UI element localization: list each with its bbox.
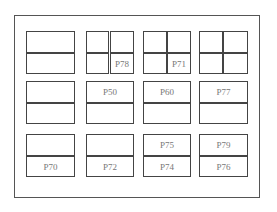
cell-c4-r2a: P77 xyxy=(199,81,248,103)
cell-c3-r2a: P60 xyxy=(143,81,191,103)
cell-c1-r1a xyxy=(26,31,75,53)
cell-c2-r3b: P72 xyxy=(86,155,134,177)
cell-c1-r1b xyxy=(26,52,75,74)
cell-c2-r1a-left xyxy=(86,31,109,53)
cell-c3-r3a: P75 xyxy=(143,134,191,156)
cell-c3-r1a-left xyxy=(143,31,167,53)
cell-c3-r1a-right xyxy=(167,31,191,53)
cell-c2-r2a: P50 xyxy=(86,81,134,103)
cell-c4-r3a: P79 xyxy=(199,134,248,156)
cell-c4-r1a-right xyxy=(223,31,248,53)
cell-c2-r2b xyxy=(86,102,134,124)
cell-c3-r1b-left xyxy=(143,52,167,74)
cell-c4-r2b xyxy=(199,102,248,124)
cell-c4-r3b: P76 xyxy=(199,155,248,177)
cell-c1-r3b: P70 xyxy=(26,155,75,177)
cell-c2-r1a-right xyxy=(110,31,134,53)
cell-c3-r1b-right: P71 xyxy=(167,52,191,74)
cell-c1-r2b xyxy=(26,102,75,124)
cell-c1-r2a xyxy=(26,81,75,103)
cell-c4-r1a-left xyxy=(199,31,223,53)
cell-c3-r2b xyxy=(143,102,191,124)
cell-c2-r1b-right: P78 xyxy=(110,52,134,74)
cell-c4-r1b-left xyxy=(199,52,223,74)
cell-c2-r3a xyxy=(86,134,134,156)
cell-c4-r1b-right xyxy=(223,52,248,74)
cell-c1-r3a xyxy=(26,134,75,156)
cell-c3-r3b: P74 xyxy=(143,155,191,177)
cell-c2-r1b-left xyxy=(86,52,109,74)
